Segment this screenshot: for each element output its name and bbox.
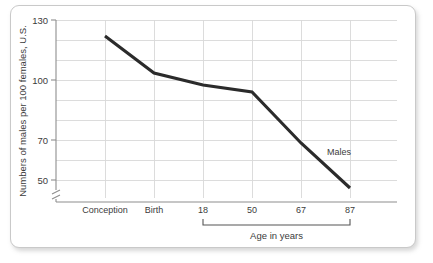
- x-tick-label-conception: Conception: [82, 205, 128, 215]
- x-tick-label-87: 87: [345, 205, 355, 215]
- vertical-gridlines: [105, 20, 350, 198]
- x-axis-title: Age in years: [250, 230, 303, 241]
- y-axis-break-icon: [52, 190, 60, 199]
- x-tick-label-18: 18: [198, 205, 208, 215]
- line-chart: 130 100 70 50 Numbers of males per 100 f…: [0, 0, 433, 263]
- series-label-males: Males: [327, 147, 352, 157]
- series-males-line: [105, 36, 350, 188]
- y-tick-marks: [51, 20, 56, 180]
- x-tick-label-birth: Birth: [145, 205, 164, 215]
- y-tick-label-130: 130: [32, 15, 48, 26]
- y-tick-label-70: 70: [37, 135, 48, 146]
- chart-container: 130 100 70 50 Numbers of males per 100 f…: [0, 0, 433, 263]
- y-axis-title: Numbers of males per 100 females, U.S.: [17, 25, 28, 197]
- y-tick-label-50: 50: [37, 175, 48, 186]
- x-tick-label-50: 50: [247, 205, 257, 215]
- y-tick-label-100: 100: [32, 75, 48, 86]
- age-range-bracket: [203, 219, 350, 225]
- x-tick-label-67: 67: [296, 205, 306, 215]
